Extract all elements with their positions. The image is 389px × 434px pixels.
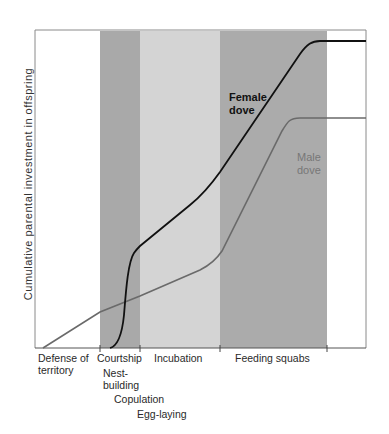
phase-band-incubation xyxy=(140,31,220,348)
y-axis-label: Cumulative parental investment in offspr… xyxy=(22,64,34,304)
phase-label-feeding-squabs: Feeding squabs xyxy=(235,352,310,364)
female-dove-label: Female dove xyxy=(229,91,267,117)
phase-band-feeding xyxy=(220,31,327,348)
phase-label-courtship: Courtship xyxy=(97,352,142,364)
phase-label-copulation: Copulation xyxy=(114,393,164,405)
phase-label-incubation: Incubation xyxy=(154,352,202,364)
phase-label-defense: Defense of territory xyxy=(38,352,89,376)
phase-label-egg-laying: Egg-laying xyxy=(137,408,187,420)
phase-band-courtship xyxy=(100,31,140,348)
male-dove-label: Male dove xyxy=(297,151,321,177)
phase-label-nest-building: Nest- building xyxy=(103,367,139,391)
